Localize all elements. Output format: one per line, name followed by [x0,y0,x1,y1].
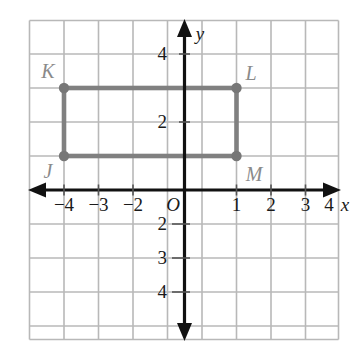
y-tick-label-neg2: 2 [158,213,168,234]
x-tick-label-pos4: 4 [324,194,334,215]
y-tick-label-neg3: 3 [158,247,168,268]
coordinate-plane-svg: −4 −3 −2 O 1 2 3 4 x 4 2 2 3 4 y K L J M [0,0,354,357]
x-tick-label-neg2: −2 [123,194,143,215]
vertex-label-k: K [40,60,56,82]
coordinate-plane-figure: −4 −3 −2 O 1 2 3 4 x 4 2 2 3 4 y K L J M [0,0,354,357]
vertex-point-j [59,151,69,161]
origin-label: O [166,194,180,215]
x-tick-label-neg3: −3 [88,194,108,215]
y-tick-label-pos4: 4 [158,43,168,64]
vertex-point-l [231,83,241,93]
y-tick-label-pos2: 2 [158,111,168,132]
vertex-point-m [231,151,241,161]
x-tick-label-neg4: −4 [54,194,75,215]
y-axis-label: y [194,23,205,44]
vertex-label-m: M [245,163,264,185]
x-tick-label-pos3: 3 [301,194,311,215]
vertex-label-l: L [244,62,256,84]
x-axis-label: x [340,194,350,215]
vertex-point-k [59,83,69,93]
x-tick-label-pos2: 2 [266,194,276,215]
y-tick-label-neg4: 4 [158,281,168,302]
x-tick-label-pos1: 1 [232,194,242,215]
vertex-label-j: J [44,160,54,182]
